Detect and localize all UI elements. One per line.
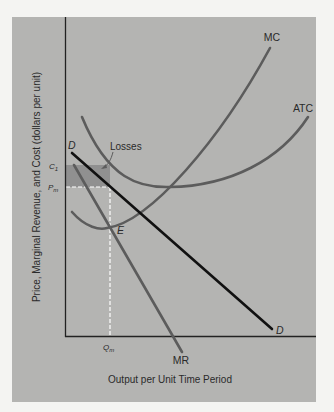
demand-label-top: D <box>68 139 76 151</box>
mr-label: MR <box>173 354 190 366</box>
atc-label: ATC <box>293 102 314 114</box>
losses-label: Losses <box>110 141 142 152</box>
y-axis-title: Price, Marginal Revenue, and Cost (dolla… <box>31 72 42 302</box>
demand-label-bottom: D <box>276 324 284 336</box>
mc-label: MC <box>264 31 281 43</box>
monopoly-loss-diagram: MC ATC MR D D E Losses C1 Pm Qm Output p… <box>0 0 334 412</box>
x-axis-title: Output per Unit Time Period <box>108 374 232 385</box>
figure-panel <box>12 17 316 402</box>
equilibrium-label: E <box>117 224 125 236</box>
